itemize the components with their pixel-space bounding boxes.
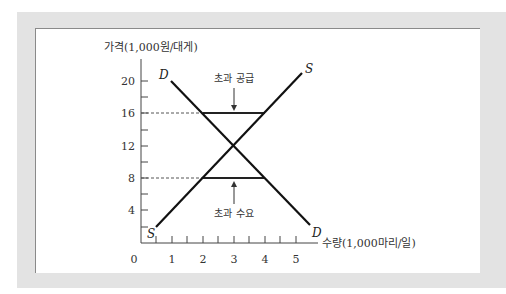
y-ticks — [141, 81, 148, 227]
supply-demand-chart: 4 8 12 16 20 0 1 2 3 4 5 가격(1,000원/대게) 수… — [0, 0, 506, 294]
x-axis-label: 수량(1,000마리/일) — [322, 236, 416, 250]
y-tick-label: 12 — [121, 140, 135, 153]
supply-curve — [156, 73, 302, 227]
y-tick-label: 8 — [128, 172, 135, 185]
demand-curve — [171, 81, 310, 225]
y-axis-label: 가격(1,000원/대게) — [104, 41, 198, 54]
supply-label-bottom: S — [147, 227, 155, 241]
x-tick-label: 4 — [262, 253, 269, 266]
excess-supply-label: 초과 공급 — [214, 73, 253, 84]
excess-demand-label: 초과 수요 — [214, 208, 253, 219]
x-tick-label: 5 — [293, 253, 300, 266]
demand-label-top: D — [158, 68, 169, 82]
x-tick-label: 3 — [231, 253, 238, 266]
arrow-down-icon — [231, 105, 237, 111]
y-tick-label: 16 — [121, 107, 135, 120]
arrow-up-icon — [231, 181, 237, 187]
origin-label: 0 — [131, 253, 138, 266]
y-tick-label: 20 — [121, 75, 135, 88]
x-tick-label: 1 — [169, 253, 176, 266]
x-tick-label: 2 — [200, 253, 207, 266]
supply-label-top: S — [305, 62, 313, 76]
y-tick-label: 4 — [128, 204, 135, 217]
demand-label-bottom: D — [311, 226, 322, 240]
x-ticks — [156, 236, 296, 243]
